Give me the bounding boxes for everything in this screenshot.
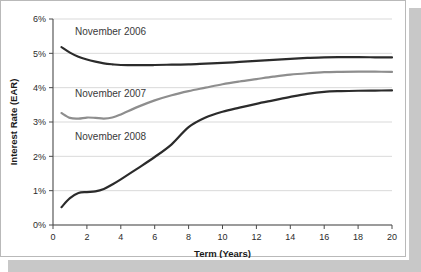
x-tick-label: 20 xyxy=(387,232,397,242)
series-label: November 2007 xyxy=(75,88,147,99)
y-tick-label: 6% xyxy=(33,14,46,24)
y-tick-label: 2% xyxy=(33,152,46,162)
x-axis-tick-labels: 02468101214161820 xyxy=(50,225,397,242)
figure-shadow-bottom xyxy=(8,260,421,272)
y-axis-title: Interest Rate (EAR) xyxy=(8,79,19,166)
x-tick-label: 18 xyxy=(353,232,363,242)
x-axis-title: Term (Years) xyxy=(194,248,251,258)
series-line xyxy=(61,90,392,207)
data-series xyxy=(61,47,392,207)
yield-curve-chart: 0%1%2%3%4%5%6% 02468101214161820 Novembe… xyxy=(1,1,407,258)
plot-wrapper: 0%1%2%3%4%5%6% 02468101214161820 Novembe… xyxy=(1,1,407,258)
x-tick-label: 4 xyxy=(118,232,123,242)
figure-shadow-right xyxy=(409,8,421,272)
y-tick-label: 1% xyxy=(33,186,46,196)
series-line xyxy=(61,47,392,65)
series-label: November 2006 xyxy=(75,26,147,37)
series-annotations: November 2006November 2007November 2008 xyxy=(75,26,147,142)
x-tick-label: 16 xyxy=(319,232,329,242)
x-tick-label: 14 xyxy=(285,232,295,242)
x-tick-label: 12 xyxy=(251,232,261,242)
series-label: November 2008 xyxy=(75,131,147,142)
figure-container: 0%1%2%3%4%5%6% 02468101214161820 Novembe… xyxy=(0,0,421,272)
chart-card: 0%1%2%3%4%5%6% 02468101214161820 Novembe… xyxy=(0,0,406,257)
x-tick-label: 6 xyxy=(152,232,157,242)
y-tick-label: 0% xyxy=(33,220,46,230)
y-tick-label: 5% xyxy=(33,49,46,59)
x-tick-label: 2 xyxy=(84,232,89,242)
y-axis-tick-labels: 0%1%2%3%4%5%6% xyxy=(33,14,53,230)
y-tick-label: 4% xyxy=(33,83,46,93)
y-tick-label: 3% xyxy=(33,117,46,127)
x-tick-label: 8 xyxy=(186,232,191,242)
x-tick-label: 0 xyxy=(50,232,55,242)
x-tick-label: 10 xyxy=(217,232,227,242)
gridlines xyxy=(53,19,392,225)
